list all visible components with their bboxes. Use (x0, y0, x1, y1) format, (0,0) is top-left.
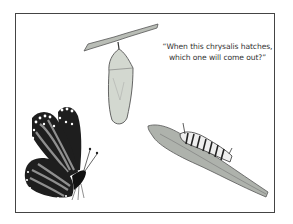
butterfly-icon (25, 107, 98, 200)
scene-illustration (0, 0, 293, 224)
leaf-icon (148, 125, 268, 197)
caption-line-1: “When this chrysalis hatches, (160, 41, 275, 52)
chrysalis-icon (108, 42, 133, 124)
twig-icon (84, 24, 158, 51)
caption-text: “When this chrysalis hatches, which one … (160, 41, 275, 63)
caption-line-2: which one will come out?” (160, 52, 275, 63)
